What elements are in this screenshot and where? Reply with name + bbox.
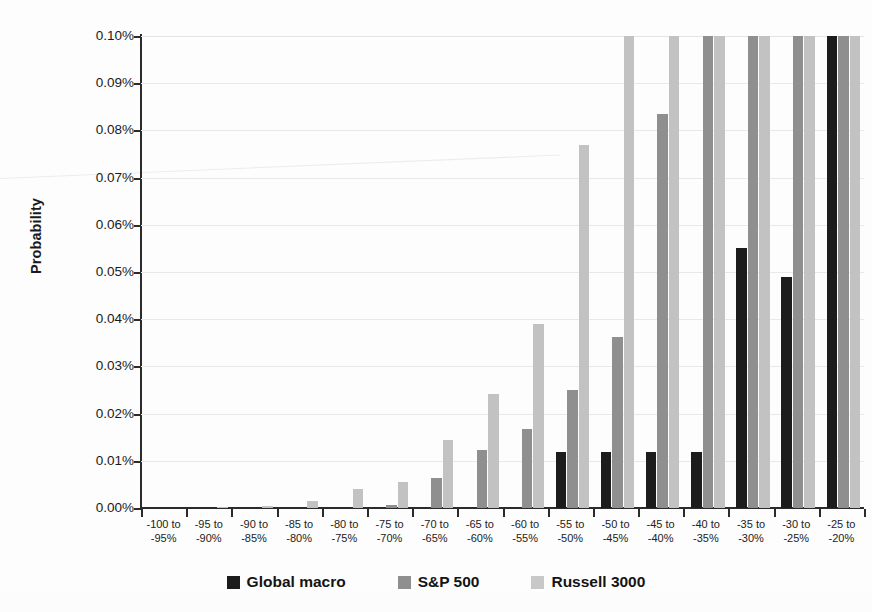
x-tick-label-line: -90% — [186, 532, 231, 546]
x-tick-label-line: -75 to — [367, 518, 412, 532]
x-tick-label-line: -60% — [457, 532, 502, 546]
x-tick-label-line: -40% — [638, 532, 683, 546]
y-tick-mark — [134, 36, 141, 38]
bar — [736, 248, 747, 508]
x-tick-mark — [503, 509, 505, 517]
y-tick-label: 0.03% — [72, 358, 134, 373]
y-tick-label: 0.07% — [72, 170, 134, 185]
bar-group — [367, 36, 412, 508]
y-tick-label: 0.08% — [72, 122, 134, 137]
x-tick-label-line: -85% — [231, 532, 276, 546]
x-tick-label: -25 to-20% — [819, 518, 864, 545]
bar — [669, 36, 680, 508]
legend-item[interactable]: Russell 3000 — [531, 573, 645, 591]
legend-item[interactable]: Global macro — [227, 573, 346, 591]
x-tick-label-line: -30% — [728, 532, 773, 546]
x-tick-mark — [186, 509, 188, 517]
x-tick-mark — [683, 509, 685, 517]
x-tick-mark — [322, 509, 324, 517]
bar — [443, 440, 454, 508]
y-tick-mark — [134, 272, 141, 274]
y-tick-label: 0.02% — [72, 406, 134, 421]
bar-group — [593, 36, 638, 508]
x-tick-label-line: -60 to — [503, 518, 548, 532]
x-tick-label-line: -75% — [322, 532, 367, 546]
bar — [601, 452, 612, 508]
x-tick-label: -55 to-50% — [548, 518, 593, 545]
bar-group — [412, 36, 457, 508]
bar — [850, 36, 861, 508]
bar-group — [141, 36, 186, 508]
x-tick-label: -80 to-75% — [322, 518, 367, 545]
plot-area — [141, 36, 864, 508]
bar-group — [683, 36, 728, 508]
y-tick-label: 0.09% — [72, 75, 134, 90]
chart-figure: Probability 0.10%0.09%0.08%0.07%0.06%0.0… — [0, 0, 872, 612]
x-tick-label: -100 to-95% — [141, 518, 186, 545]
bar — [781, 277, 792, 508]
bar — [533, 324, 544, 508]
x-tick-mark — [367, 509, 369, 517]
y-tick-mark — [134, 414, 141, 416]
bar-group — [503, 36, 548, 508]
bar — [793, 36, 804, 508]
y-tick-mark — [134, 83, 141, 85]
x-tick-mark — [141, 509, 143, 517]
bar-group — [548, 36, 593, 508]
bar-group — [322, 36, 367, 508]
x-tick-label: -95 to-90% — [186, 518, 231, 545]
x-tick-label-line: -55 to — [548, 518, 593, 532]
x-tick-label: -90 to-85% — [231, 518, 276, 545]
bar — [714, 36, 725, 508]
legend-item[interactable]: S&P 500 — [398, 573, 480, 591]
x-tick-mark — [548, 509, 550, 517]
x-tick-mark — [277, 509, 279, 517]
x-tick-mark — [864, 509, 866, 517]
x-tick-label-line: -25 to — [819, 518, 864, 532]
bar — [262, 506, 273, 508]
bar — [217, 507, 228, 508]
bar — [612, 337, 623, 508]
legend-label: Russell 3000 — [551, 573, 645, 591]
bar — [624, 36, 635, 508]
legend-label: Global macro — [247, 573, 346, 591]
x-tick-mark — [457, 509, 459, 517]
x-tick-label: -40 to-35% — [683, 518, 728, 545]
x-tick-label-line: -55% — [503, 532, 548, 546]
y-axis-tick-labels: 0.10%0.09%0.08%0.07%0.06%0.05%0.04%0.03%… — [62, 36, 134, 508]
bar — [477, 450, 488, 508]
y-tick-mark — [134, 130, 141, 132]
x-tick-label: -65 to-60% — [457, 518, 502, 545]
bar — [398, 482, 409, 508]
y-tick-mark — [134, 508, 141, 510]
bar — [431, 478, 442, 508]
bar — [691, 452, 702, 508]
bar — [804, 36, 815, 508]
y-tick-label: 0.00% — [72, 500, 134, 515]
x-tick-label-line: -50% — [548, 532, 593, 546]
x-tick-label: -30 to-25% — [774, 518, 819, 545]
bar — [556, 452, 567, 508]
scan-artifact-edge — [0, 592, 872, 612]
y-tick-mark — [134, 319, 141, 321]
x-tick-label: -70 to-65% — [412, 518, 457, 545]
bar-group — [457, 36, 502, 508]
x-tick-label: -60 to-55% — [503, 518, 548, 545]
bar — [522, 429, 533, 508]
bar — [748, 36, 759, 508]
bar-group — [819, 36, 864, 508]
x-tick-mark — [593, 509, 595, 517]
x-tick-label-line: -95% — [141, 532, 186, 546]
bar-group — [774, 36, 819, 508]
y-tick-mark — [134, 366, 141, 368]
bar — [579, 145, 590, 508]
bar — [703, 36, 714, 508]
legend-swatch-icon — [227, 576, 240, 589]
legend-swatch-icon — [398, 576, 411, 589]
legend-swatch-icon — [531, 576, 544, 589]
x-tick-mark — [638, 509, 640, 517]
chart-legend: Global macroS&P 500Russell 3000 — [0, 573, 872, 591]
bar-group — [231, 36, 276, 508]
x-tick-label: -45 to-40% — [638, 518, 683, 545]
y-tick-label: 0.05% — [72, 264, 134, 279]
